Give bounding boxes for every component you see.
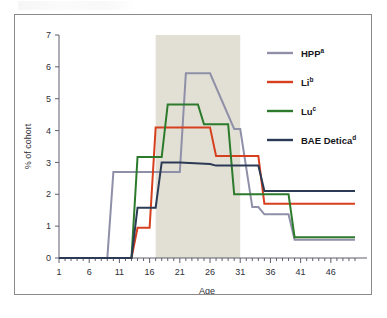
chart-figure-frame: 01234567161116212631364146 HPPaLibLucBAE… — [14, 14, 372, 295]
x-tick-label: 31 — [235, 267, 245, 277]
legend-label-bae-detica: BAE Deticad — [301, 134, 356, 146]
y-tick-label: 0 — [46, 253, 51, 263]
y-tick-label: 6 — [46, 62, 51, 72]
page-top-artifact — [18, 1, 138, 10]
y-tick-label: 4 — [46, 126, 51, 136]
x-tick-label: 41 — [296, 267, 306, 277]
x-tick-label: 16 — [145, 267, 155, 277]
y-tick-label: 3 — [46, 158, 51, 168]
x-tick-label: 46 — [326, 267, 336, 277]
y-tick-label: 5 — [46, 94, 51, 104]
x-tick-label: 21 — [175, 267, 185, 277]
x-tick-label: 1 — [56, 267, 61, 277]
x-tick-label: 36 — [265, 267, 275, 277]
y-axis-title: % of cohort — [23, 123, 33, 169]
x-tick-label: 26 — [205, 267, 215, 277]
shaded-band-rect — [156, 35, 241, 258]
shaded-age-band — [156, 35, 241, 258]
line-chart: 01234567161116212631364146 HPPaLibLucBAE… — [15, 15, 371, 294]
y-tick-label: 2 — [46, 189, 51, 199]
y-tick-label: 1 — [46, 221, 51, 231]
y-tick-label: 7 — [46, 30, 51, 40]
x-tick-label: 11 — [115, 267, 124, 277]
x-axis-title: Age — [199, 286, 215, 294]
x-tick-label: 6 — [87, 267, 92, 277]
